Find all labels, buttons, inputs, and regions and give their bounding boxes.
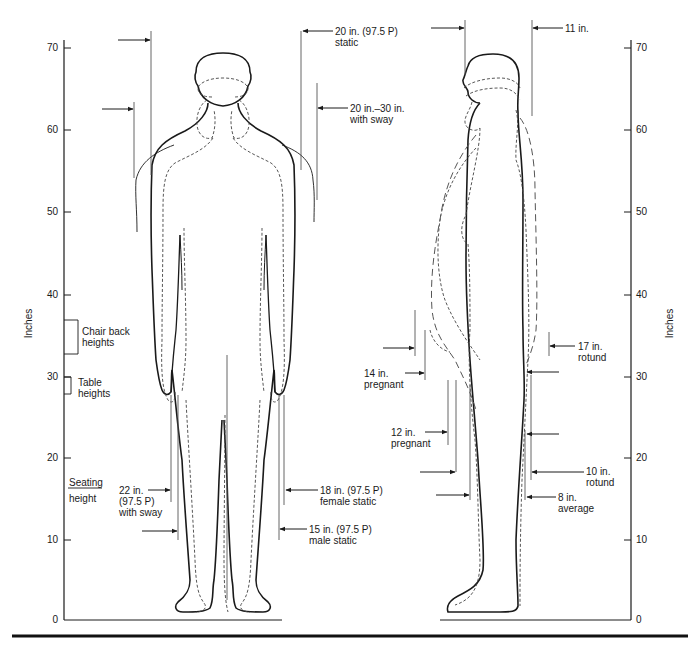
side-label-10in-rotund: 10 in. rotund — [586, 466, 614, 488]
side-label-17in-rotund: 17 in. rotund — [578, 341, 606, 363]
left-tick-50: 50 — [34, 207, 58, 217]
side-label-14in-pregnant: 14 in. pregnant — [364, 368, 403, 390]
right-tick-70: 70 — [636, 43, 647, 53]
right-tick-60: 60 — [636, 125, 647, 135]
side-measure-lines — [415, 20, 549, 500]
left-tick-70: 70 — [34, 43, 58, 53]
side-label-12in-pregnant: 12 in. pregnant — [391, 427, 430, 449]
front-label-18in-female: 18 in. (97.5 P) female static — [320, 485, 383, 507]
right-tick-40: 40 — [636, 290, 647, 300]
left-tick-0: 0 — [34, 615, 58, 625]
front-label-22in-sway: 22 in. (97.5 P) with sway — [119, 485, 162, 518]
table-label: Table heights — [78, 377, 110, 399]
right-axis-title: Inches — [664, 309, 675, 338]
right-tick-50: 50 — [636, 207, 647, 217]
left-tick-40: 40 — [34, 290, 58, 300]
chair-back-label: Chair back heights — [82, 326, 130, 348]
left-tick-10: 10 — [34, 535, 58, 545]
left-tick-60: 60 — [34, 125, 58, 135]
front-label-20in-static: 20 in. (97.5 P) static — [335, 26, 398, 48]
left-axis-title: Inches — [23, 309, 34, 338]
side-label-8in-average: 8 in. average — [558, 492, 594, 514]
right-tick-0: 0 — [636, 615, 642, 625]
front-figure — [136, 53, 315, 612]
right-tick-30: 30 — [636, 372, 647, 382]
side-figure — [430, 54, 537, 612]
seating-label: Seating height — [69, 477, 103, 504]
front-label-15in-male: 15 in. (97.5 P) male static — [309, 524, 372, 546]
right-tick-20: 20 — [636, 453, 647, 463]
anthropometric-diagram — [0, 0, 697, 649]
left-tick-30: 30 — [34, 372, 58, 382]
front-label-20-30in-sway: 20 in.–30 in. with sway — [350, 103, 405, 125]
left-tick-20: 20 — [34, 453, 58, 463]
side-label-11in: 11 in. — [565, 23, 589, 34]
right-tick-10: 10 — [636, 535, 647, 545]
